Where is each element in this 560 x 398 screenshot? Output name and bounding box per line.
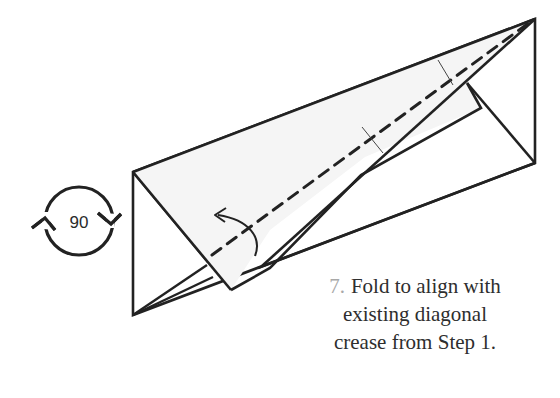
rotation-label: 90 [70,213,89,232]
step-number: 7. [329,274,345,298]
origami-diagram-canvas: 90 7.Fold to align with existing diagona… [0,0,560,398]
caption-line-3: crease from Step 1. [270,328,560,356]
caption-text-1: Fold to align with [351,274,501,298]
caption-line-1: 7.Fold to align with [270,272,560,300]
rotate-90-icon: 90 [32,187,121,255]
caption-line-2: existing diagonal [270,300,560,328]
step-caption: 7.Fold to align with existing diagonal c… [270,272,560,356]
